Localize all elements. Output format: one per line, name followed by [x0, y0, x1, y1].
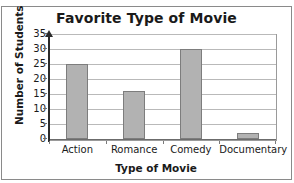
figure-border: Favorite Type of Movie Number of Student… [1, 6, 292, 180]
y-tick-label: 25 [4, 59, 46, 69]
x-axis-baseline [49, 139, 276, 140]
x-tick-mark [49, 141, 50, 144]
y-tick-label: 5 [4, 119, 46, 129]
bar-documentary [237, 133, 259, 139]
y-tick-mark [43, 48, 47, 49]
chart-screenshot: Favorite Type of Movie Number of Student… [0, 0, 294, 183]
chart-title: Favorite Type of Movie [2, 10, 291, 26]
x-tick-label: Romance [106, 144, 163, 155]
bar-romance [123, 91, 145, 139]
y-axis-line [48, 36, 50, 142]
x-axis-title: Type of Movie [36, 162, 276, 174]
y-tick-mark [43, 108, 47, 109]
y-tick-label: 30 [4, 44, 46, 54]
y-tick-mark [43, 138, 47, 139]
y-axis-tick-labels: 05101520253035 [2, 34, 46, 141]
y-tick-mark [43, 93, 47, 94]
x-tick-label: Comedy [163, 144, 220, 155]
y-tick-mark [43, 123, 47, 124]
x-axis-tick-labels: ActionRomanceComedyDocumentary [49, 144, 277, 160]
y-tick-label: 20 [4, 74, 46, 84]
y-tick-mark [43, 78, 47, 79]
y-tick-label: 0 [4, 134, 46, 144]
x-tick-mark [219, 141, 220, 144]
y-tick-label: 10 [4, 104, 46, 114]
bar-comedy [180, 49, 202, 139]
y-tick-mark [43, 63, 47, 64]
x-tick-mark [163, 141, 164, 144]
y-tick-label: 35 [4, 29, 46, 39]
y-tick-label: 15 [4, 89, 46, 99]
bar-action [66, 64, 88, 139]
gridline [49, 34, 276, 35]
x-tick-label: Documentary [219, 144, 276, 155]
x-tick-label: Action [49, 144, 106, 155]
gridline [49, 49, 276, 50]
x-tick-mark [275, 141, 276, 144]
plot-area [49, 34, 277, 141]
y-axis-arrow-icon [45, 30, 53, 37]
x-tick-mark [106, 141, 107, 144]
